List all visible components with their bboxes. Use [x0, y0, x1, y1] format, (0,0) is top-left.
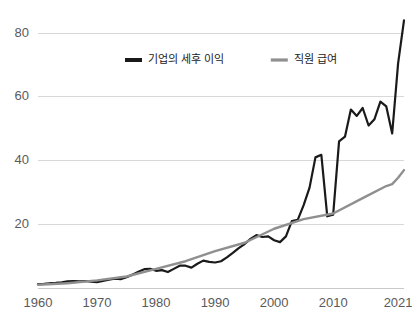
- x-tick-label-1970: 1970: [83, 295, 112, 310]
- series-line-employee-wages: [38, 170, 404, 285]
- y-tick-label-40: 40: [15, 152, 29, 167]
- y-tick-label-20: 20: [15, 216, 29, 231]
- y-axis-tick-labels: 20406080: [15, 25, 29, 231]
- x-tick-label-1990: 1990: [201, 295, 230, 310]
- x-tick-label-1960: 1960: [24, 295, 53, 310]
- line-chart: 20406080 1960197019801990200020102021 기업…: [0, 0, 412, 323]
- x-tick-label-2010: 2010: [319, 295, 348, 310]
- legend-label-corporate-profits: 기업의 세후 이익: [148, 53, 224, 65]
- chart-container: 20406080 1960197019801990200020102021 기업…: [0, 0, 412, 323]
- x-tick-label-2021: 2021: [384, 295, 412, 310]
- legend-label-employee-wages: 직원 급여: [294, 53, 337, 65]
- x-tick-label-1980: 1980: [142, 295, 171, 310]
- y-tick-label-60: 60: [15, 88, 29, 103]
- chart-legend: 기업의 세후 이익직원 급여: [125, 53, 337, 65]
- x-axis-tick-labels: 1960197019801990200020102021: [24, 295, 412, 310]
- y-tick-label-80: 80: [15, 25, 29, 40]
- x-tick-label-2000: 2000: [260, 295, 289, 310]
